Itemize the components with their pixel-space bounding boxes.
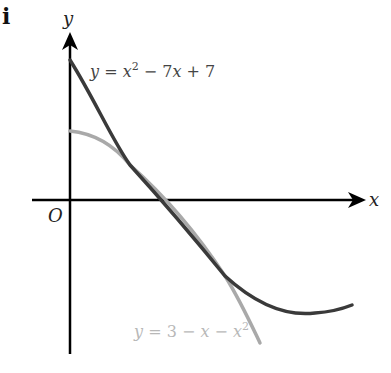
equation-dark: y = x2 − 7x + 7	[89, 60, 215, 81]
graph-figure: i x y O y = x2 − 7x + 7 y = 3 − x − x2	[0, 0, 391, 373]
curve-dark	[70, 60, 352, 314]
curve-light	[70, 131, 260, 343]
origin-label: O	[48, 205, 63, 226]
equation-light: y = 3 − x − x2	[133, 320, 249, 341]
y-axis-label: y	[62, 8, 74, 29]
x-axis-label: x	[369, 189, 379, 210]
part-label: i	[2, 3, 10, 29]
